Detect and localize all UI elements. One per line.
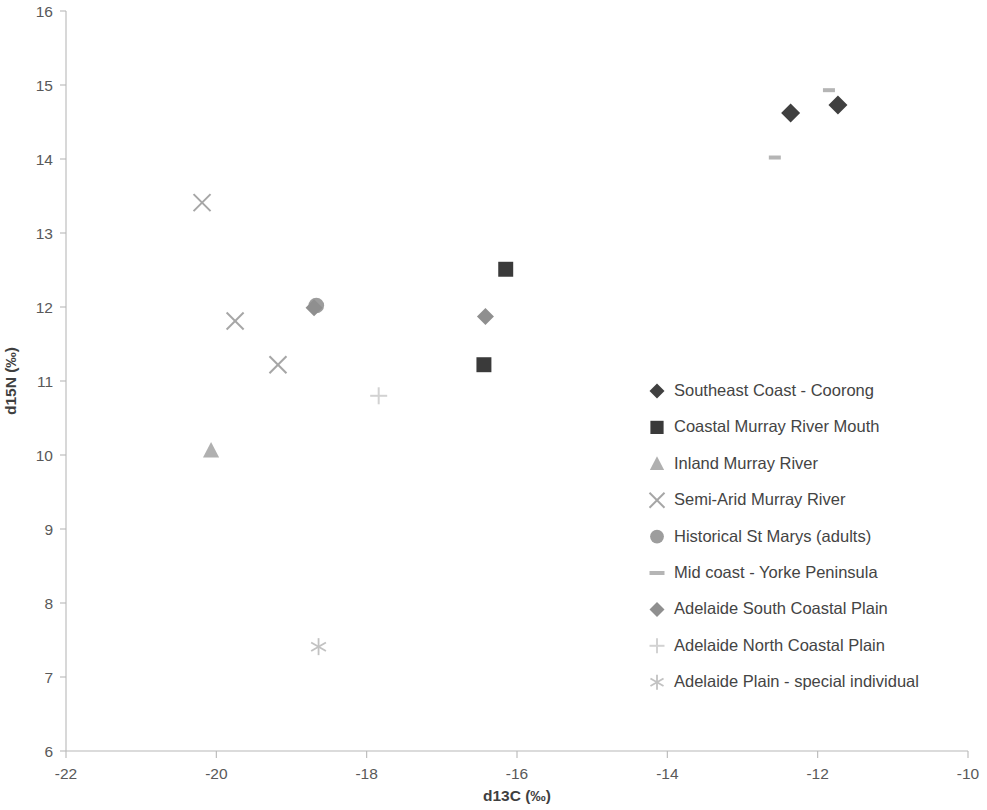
y-axis-title: d15N (‰) <box>2 347 19 415</box>
data-point <box>203 442 219 457</box>
legend-item: Adelaide North Coastal Plain <box>650 636 885 654</box>
legend-label: Adelaide Plain - special individual <box>674 672 919 690</box>
y-tick-label: 15 <box>36 77 53 94</box>
y-tick-label: 16 <box>36 3 53 20</box>
legend-marker-icon <box>650 456 664 470</box>
x-tick-label: -14 <box>656 765 679 782</box>
x-tick-label: -10 <box>957 765 980 782</box>
legend-marker-icon <box>650 493 665 508</box>
data-point <box>476 357 491 372</box>
y-tick-label: 9 <box>44 521 53 538</box>
legend-item: Southeast Coast - Coorong <box>650 381 874 399</box>
data-point <box>781 104 800 123</box>
data-point <box>227 313 244 330</box>
data-point <box>269 356 286 373</box>
legend-marker-icon <box>650 675 663 690</box>
legend-label: Mid coast - Yorke Peninsula <box>674 563 878 581</box>
legend-marker-icon <box>650 571 665 575</box>
series-inland-murray-river <box>203 442 219 457</box>
x-axis-title: d13C (‰) <box>483 787 551 804</box>
x-tick-label: -20 <box>205 765 228 782</box>
legend-item: Mid coast - Yorke Peninsula <box>650 563 879 581</box>
legend-marker-icon <box>650 384 665 399</box>
legend-label: Historical St Marys (adults) <box>674 527 871 545</box>
chart-legend: Southeast Coast - CoorongCoastal Murray … <box>650 381 919 690</box>
y-tick-label: 12 <box>36 299 53 316</box>
chart-canvas: 678910111213141516-22-20-18-16-14-12-10 … <box>0 0 987 810</box>
data-point <box>498 262 513 277</box>
series-adelaide-north-coastal-plain <box>370 387 387 404</box>
series-southeast-coast-coorong <box>781 95 847 122</box>
data-point <box>769 156 781 160</box>
y-tick-label: 13 <box>36 225 53 242</box>
x-tick-label: -12 <box>806 765 828 782</box>
y-tick-label: 14 <box>36 151 54 168</box>
y-tick-label: 8 <box>44 595 53 612</box>
legend-item: Historical St Marys (adults) <box>650 527 871 545</box>
data-point <box>194 194 211 211</box>
legend-label: Semi-Arid Murray River <box>674 490 846 508</box>
legend-label: Inland Murray River <box>674 454 818 472</box>
y-tick-label: 6 <box>44 743 53 760</box>
legend-item: Coastal Murray River Mouth <box>650 417 879 435</box>
legend-item: Semi-Arid Murray River <box>650 490 846 508</box>
legend-label: Adelaide North Coastal Plain <box>674 636 885 654</box>
legend-label: Southeast Coast - Coorong <box>674 381 874 399</box>
legend-item: Inland Murray River <box>650 454 819 472</box>
data-point <box>823 88 835 92</box>
x-tick-label: -22 <box>55 765 77 782</box>
legend-marker-icon <box>650 421 663 434</box>
legend-item: Adelaide Plain - special individual <box>650 672 918 690</box>
axis-titles-layer: d13C (‰)d15N (‰) <box>2 347 551 804</box>
series-semi-arid-murray-river <box>194 194 287 373</box>
legend-label: Coastal Murray River Mouth <box>674 417 879 435</box>
x-tick-label: -16 <box>506 765 528 782</box>
legend-marker-icon <box>650 530 664 544</box>
data-point <box>370 387 387 404</box>
y-tick-label: 11 <box>37 373 53 390</box>
x-tick-label: -18 <box>355 765 377 782</box>
y-tick-label: 7 <box>44 669 53 686</box>
series-adelaide-south-coastal-plain <box>306 299 494 325</box>
legend-label: Adelaide South Coastal Plain <box>674 599 888 617</box>
legend-item: Adelaide South Coastal Plain <box>650 599 888 617</box>
data-point <box>477 308 494 325</box>
legend-marker-icon <box>650 602 665 617</box>
series-mid-coast-yorke-peninsula <box>769 88 835 159</box>
data-point <box>828 95 847 114</box>
data-point <box>311 638 326 655</box>
series-adelaide-plain-special-individual <box>311 638 326 655</box>
legend-marker-icon <box>650 638 665 653</box>
scatter-chart: 678910111213141516-22-20-18-16-14-12-10 … <box>0 0 987 810</box>
y-tick-label: 10 <box>36 447 54 464</box>
